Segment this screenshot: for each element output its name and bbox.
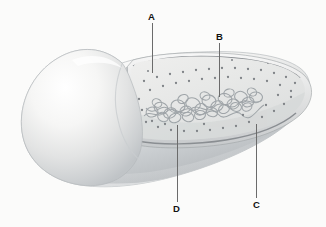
bacterium-cutaway-illustration	[0, 0, 326, 227]
label-b: B	[216, 32, 223, 42]
label-c: C	[253, 200, 260, 210]
broken-cap-overlap	[21, 49, 142, 185]
label-a: A	[148, 12, 155, 22]
label-d: D	[173, 204, 180, 214]
